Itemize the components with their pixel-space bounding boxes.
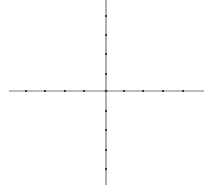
x-tick-mark [123, 90, 125, 92]
y-tick-mark [105, 149, 107, 151]
x-tick-mark [182, 90, 184, 92]
y-tick-mark [105, 168, 107, 170]
x-tick-mark [25, 90, 27, 92]
y-tick-mark [105, 53, 107, 55]
x-tick-mark [142, 90, 144, 92]
y-tick-mark [105, 110, 107, 112]
y-tick-mark [105, 34, 107, 36]
coordinate-plane [0, 0, 209, 195]
x-tick-mark [64, 90, 66, 92]
x-tick-mark [44, 90, 46, 92]
x-tick-mark [83, 90, 85, 92]
y-tick-mark [105, 129, 107, 131]
y-tick-mark [105, 73, 107, 75]
y-tick-mark [105, 15, 107, 17]
origin-point [105, 90, 108, 93]
x-tick-mark [162, 90, 164, 92]
